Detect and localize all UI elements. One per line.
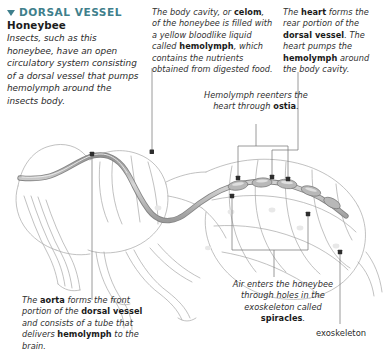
- interior-shading: [155, 206, 340, 251]
- section-title-row[interactable]: DORSAL VESSEL: [7, 6, 145, 18]
- callout-ostia: Hemolymph reenters the heart through ost…: [203, 90, 309, 113]
- page-title: DORSAL VESSEL: [19, 6, 122, 18]
- callout-spiracles: Air enters the honeybee through holes in…: [221, 279, 345, 325]
- heart-chamber-highlights: [232, 179, 317, 193]
- leader-dots: [90, 150, 342, 255]
- callout-heart: The heart forms the rear portion of the …: [283, 7, 383, 75]
- intro-paragraph: Insects, such as this honeybee, have an …: [7, 32, 145, 108]
- dorsal-vessel-figure: DORSAL VESSEL Honeybee Insects, such as …: [0, 0, 387, 354]
- heart-chambers: [227, 177, 342, 211]
- triangle-down-icon[interactable]: [7, 10, 15, 16]
- callout-aorta: The aorta forms the front portion of the…: [22, 295, 152, 352]
- species-name: Honeybee: [7, 19, 145, 31]
- figure-header: DORSAL VESSEL Honeybee Insects, such as …: [7, 6, 145, 108]
- callout-celom: The body cavity, or celom, of the honeyb…: [152, 7, 274, 75]
- dorsal-vessel-path: [20, 154, 346, 221]
- label-exoskeleton: exoskeleton: [316, 328, 366, 338]
